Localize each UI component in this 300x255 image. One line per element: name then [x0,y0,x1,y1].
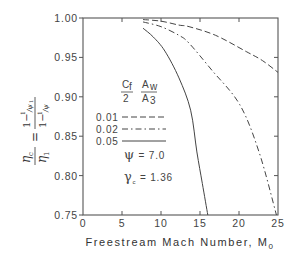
legend-cf-sub: f [129,81,133,92]
svg-text:1: 1 [43,152,51,156]
svg-text:1: 1 [28,100,34,103]
svg-text:c: c [27,152,35,156]
legend-a3: A [142,93,149,104]
y-axis-title: η c η 1 = 1− 1 /ψ 1 1− 1 /ψ [4,70,64,180]
series-0.02 [143,22,276,215]
x-tick-label: 10 [154,217,167,229]
x-axis-title: Freestream Mach Number, M0 [85,236,274,251]
legend-a3-sub: 3 [150,95,156,106]
series-0.05 [143,28,208,215]
svg-text:1: 1 [19,111,26,115]
annotation: γc = 1.36 [124,169,173,185]
legend-aw-sub: w [149,81,158,92]
svg-text:/ψ: /ψ [42,104,50,113]
series-0.01 [143,20,278,73]
y-tick-label: 1.00 [54,12,78,24]
legend-aw: A [142,79,149,90]
y-tick-label: 0.95 [54,51,78,63]
legend-label-0.05: 0.05 [96,136,119,147]
x-tick-label: 20 [232,217,245,229]
annotation: ψ = 7.0 [124,147,165,162]
x-tick-label: 0 [80,217,87,229]
x-tick-label: 5 [119,217,126,229]
legend-cf-den: 2 [123,93,129,104]
legend: Cf2AwA30.010.020.05 [96,79,166,147]
svg-text:=: = [28,132,42,142]
legend-label-0.02: 0.02 [96,124,119,135]
axis-ticks: 05101520250.750.800.850.900.951.00 [54,12,284,229]
y-tick-label: 0.75 [54,209,78,221]
x-tick-label: 15 [193,217,206,229]
legend-label-0.01: 0.01 [96,112,119,123]
annotations: ψ = 7.0γc = 1.36 [124,147,173,185]
svg-text:/ψ: /ψ [26,104,34,113]
x-tick-label: 25 [271,217,284,229]
